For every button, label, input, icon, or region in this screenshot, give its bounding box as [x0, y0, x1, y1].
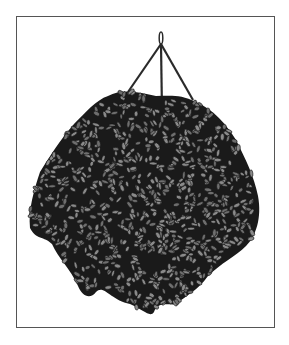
hook-icon: [159, 32, 163, 44]
hanging-plant-illustration: [0, 0, 289, 345]
